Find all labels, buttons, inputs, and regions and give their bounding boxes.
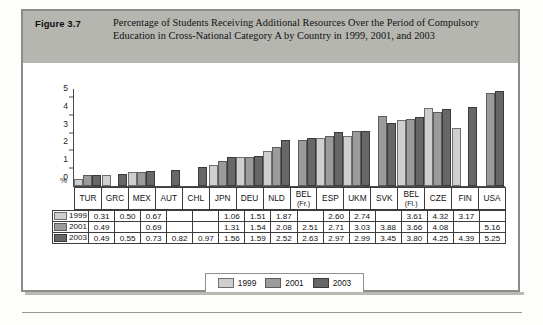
category-label-CHL: CHL [183,188,210,209]
figure-caption-text: Percentage of Students Receiving Additio… [113,17,506,63]
table-cell: 3.88 [375,222,401,233]
legend-item-2001: 2001 [265,278,303,288]
table-cell [115,222,141,233]
bar-2003-BELFr [307,138,316,186]
category-label-MEX: MEX [129,188,156,209]
y-tick-label-3: 3 [63,119,73,129]
category-label-TUR: TUR [75,188,102,209]
bar-2001-NLD [272,147,281,186]
frame-shadow [25,292,524,295]
category-label-BELFl: BEL(Fl.) [398,188,425,209]
table-cell: 1.06 [219,211,245,222]
table-cell: 1.87 [271,211,297,222]
bar-group [236,89,263,186]
table-cell: 3.45 [375,233,401,244]
bar-2001-USA [486,93,495,186]
category-label-ESP: ESP [317,188,344,209]
category-label-UKM: UKM [344,188,371,209]
figure-frame: Figure 3.7 Percentage of Students Receiv… [21,9,520,292]
table-cell: 1.51 [245,211,271,222]
table-cell: 3.03 [349,222,375,233]
bar-2003-SVK [387,123,396,186]
bar-group [290,89,317,186]
y-tick-mark-4 [69,114,73,115]
bar-group-container [74,89,505,186]
bar-2003-NLD [281,140,290,186]
bar-2001-ESP [325,136,334,186]
table-cell [479,211,505,222]
bar-1999-ESP [316,138,325,186]
table-cell: 0.73 [141,233,167,244]
table-cell: 2.08 [271,222,297,233]
table-cell: 4.08 [427,222,453,233]
table-cell: 0.31 [89,211,115,222]
bar-2003-TUR [92,175,101,186]
table-cell [453,222,479,233]
y-tick-mark-3 [69,132,73,133]
bar-2003-MEX [146,171,155,186]
category-label-NLD: NLD [264,188,291,209]
bar-group [343,89,370,186]
bar-2003-CHL [198,167,207,186]
table-cell: 2.63 [297,233,323,244]
table-cell: 1.54 [245,222,271,233]
chart-legend: 199920012003 [205,273,364,293]
y-tick-label-1: 1 [63,154,73,164]
category-label-CZE: CZE [425,188,452,209]
bar-2001-CZE [433,112,442,186]
category-label-GRC: GRC [102,188,129,209]
table-cell: 1.56 [219,233,245,244]
table-row-label-2001: 2001 [53,222,89,233]
bottom-divider-rule [22,312,522,313]
bar-group [397,89,424,186]
bar-1999-MEX [128,172,137,186]
bar-group [370,89,397,186]
table-cell: 2.71 [323,222,349,233]
table-cell: 1.31 [219,222,245,233]
legend-item-2003: 2003 [313,278,351,288]
table-row: 20010.490.691.311.542.082.512.713.033.88… [53,222,506,233]
bar-1999-GRC [102,175,111,186]
y-tick-mark-2 [69,150,73,151]
table-cell [167,211,193,222]
category-label-DEU: DEU [237,188,264,209]
table-cell: 2.99 [349,233,375,244]
category-sublabel: (Fr.) [297,199,310,208]
bar-1999-DEU [236,157,245,186]
plot-axes: 012345 [73,89,505,187]
bar-2001-MEX [137,172,146,186]
bar-1999-FIN [452,128,461,186]
bar-2001-JPN [218,161,227,186]
category-sublabel: (Fl.) [405,199,418,208]
bar-2003-ESP [334,132,343,186]
bar-group [155,89,182,186]
category-label-BELFr: BEL(Fr.) [291,188,318,209]
table-row-label-2003: 2003 [53,233,89,244]
bar-group [263,89,290,186]
table-cell [375,211,401,222]
legend-swatch-icon [54,223,67,231]
bar-2001-SVK [378,116,387,186]
table-cell: 0.82 [167,233,193,244]
figure-caption-band: Figure 3.7 Percentage of Students Receiv… [23,11,518,63]
legend-label: 2003 [333,278,351,288]
bar-2003-JPN [227,157,236,187]
bar-2001-BELFr [298,140,307,186]
bar-2003-UKM [361,131,370,186]
legend-color-swatch-icon [218,278,234,288]
y-tick-label-0: 0 [63,172,73,182]
figure-page: Figure 3.7 Percentage of Students Receiv… [0,0,543,325]
legend-swatch-icon [54,234,67,242]
category-label-SVK: SVK [371,188,398,209]
table-cell: 4.25 [427,233,453,244]
legend-swatch-icon [54,212,67,220]
bar-2003-BELFl [415,117,424,186]
data-table: 19990.310.500.671.061.511.872.602.743.61… [52,210,506,244]
bar-group [209,89,236,186]
table-cell: 0.55 [115,233,141,244]
table-cell: 5.16 [479,222,505,233]
table-cell: 3.17 [453,211,479,222]
table-cell: 0.50 [115,211,141,222]
table-cell: 4.32 [427,211,453,222]
legend-label: 2001 [285,278,303,288]
